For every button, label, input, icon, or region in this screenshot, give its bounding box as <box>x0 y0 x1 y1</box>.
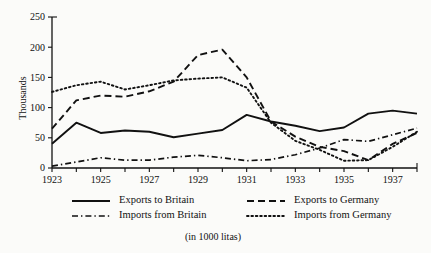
legend-label: Imports from Britain <box>119 209 207 220</box>
y-tick-label: 100 <box>30 102 45 113</box>
x-tick-label: 1935 <box>334 174 354 185</box>
y-tick-label: 250 <box>30 11 45 22</box>
x-tick-label: 1933 <box>285 174 305 185</box>
x-axis: 19231925192719291931193319351937 <box>42 163 417 185</box>
x-tick-label: 1937 <box>383 174 403 185</box>
x-tick-label: 1927 <box>139 174 159 185</box>
series-line-exports-to-britain <box>52 111 417 144</box>
chart-caption: (in 1000 litas) <box>185 231 241 243</box>
chart-legend: Exports to BritainExports to GermanyImpo… <box>72 194 392 220</box>
y-tick-label: 50 <box>35 132 45 143</box>
legend-label: Exports to Britain <box>119 194 195 205</box>
x-tick-label: 1923 <box>42 174 62 185</box>
series-line-exports-to-germany <box>52 50 417 161</box>
x-tick-label: 1931 <box>237 174 257 185</box>
legend-label: Imports from Germany <box>294 209 392 220</box>
chart-container: 050100150200250 192319251927192919311933… <box>0 0 431 253</box>
legend-label: Exports to Germany <box>294 194 380 205</box>
series-line-imports-from-germany <box>52 77 417 160</box>
y-tick-label: 0 <box>40 162 45 173</box>
y-axis-title: Thousands <box>17 76 28 119</box>
y-tick-label: 200 <box>30 42 45 53</box>
series-layer <box>52 50 417 167</box>
line-chart: 050100150200250 192319251927192919311933… <box>0 0 431 253</box>
x-tick-label: 1929 <box>188 174 208 185</box>
y-tick-label: 150 <box>30 72 45 83</box>
x-tick-label: 1925 <box>91 174 111 185</box>
